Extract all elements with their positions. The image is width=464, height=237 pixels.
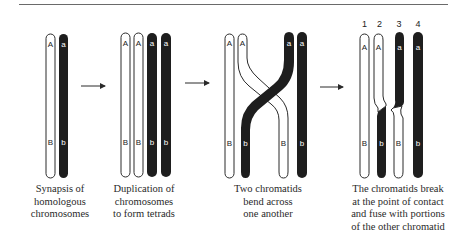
caption-line: of the other chromatid	[336, 221, 460, 234]
gene-label: b	[61, 138, 66, 147]
chromatid-dark	[297, 32, 307, 178]
caption-line: and fuse with portions	[336, 208, 460, 221]
gene-label: B	[136, 138, 141, 147]
gene-label: B	[227, 139, 232, 148]
gene-label: b	[243, 139, 248, 148]
gene-label: B	[362, 139, 367, 148]
chromatid-light	[225, 34, 234, 178]
panel-bending: A A a a B b B b	[225, 32, 307, 178]
gene-label: B	[123, 138, 128, 147]
chromatid-light	[46, 34, 55, 178]
caption-line: The chromatids break	[336, 183, 460, 196]
caption-synapsis: Synapsis of homologous chromosomes	[14, 183, 106, 221]
caption-line: chromosomes	[14, 208, 106, 221]
chromatid-4	[413, 32, 423, 178]
caption-bending: Two chromatids bend across one another	[220, 183, 316, 221]
gene-label: b	[300, 139, 305, 148]
gene-label: A	[376, 43, 382, 52]
caption-line: Duplication of	[96, 183, 192, 196]
gene-label: A	[227, 39, 233, 48]
chromatid-light	[134, 33, 143, 177]
gene-label: a	[300, 39, 305, 48]
chromatid-number: 4	[415, 19, 420, 29]
gene-label: B	[281, 139, 286, 148]
chromatid-number: 2	[377, 19, 382, 29]
caption-line: chromosomes	[96, 196, 192, 209]
gene-label: A	[136, 39, 142, 48]
caption-line: one another	[220, 208, 316, 221]
caption-line: at the point of contact	[336, 196, 460, 209]
chromatid-number: 1	[362, 19, 367, 29]
panel-crossover: 1 2 3 4 A A a a B b B b	[360, 19, 423, 178]
chromatid-number: 3	[396, 19, 401, 29]
gene-label: A	[362, 43, 368, 52]
panel-duplication: A A a a B B b b	[121, 33, 171, 177]
gene-label: B	[48, 138, 53, 147]
panel-synapsis: A a B b	[46, 34, 68, 178]
gene-label: A	[123, 39, 129, 48]
gene-label: B	[396, 139, 401, 148]
chromatid-dark	[147, 33, 157, 177]
gene-label: A	[48, 40, 54, 49]
gene-label: A	[240, 39, 246, 48]
caption-line: bend across	[220, 196, 316, 209]
gene-label: b	[416, 139, 421, 148]
gene-label: a	[416, 43, 421, 52]
chromatid-dark	[59, 34, 68, 178]
caption-crossover: The chromatids break at the point of con…	[336, 183, 460, 233]
chromatid-1	[360, 34, 369, 178]
caption-line: Two chromatids	[220, 183, 316, 196]
gene-label: b	[150, 138, 155, 147]
gene-label: b	[379, 139, 384, 148]
caption-line: to form tetrads	[96, 208, 192, 221]
gene-label: a	[287, 39, 292, 48]
caption-line: homologous	[14, 196, 106, 209]
gene-label: a	[150, 39, 155, 48]
chromatid-light	[121, 33, 130, 177]
caption-duplication: Duplication of chromosomes to form tetra…	[96, 183, 192, 221]
caption-line: Synapsis of	[14, 183, 106, 196]
gene-label: a	[164, 39, 169, 48]
gene-label: b	[164, 138, 169, 147]
gene-label: a	[61, 40, 66, 49]
gene-label: a	[397, 43, 402, 52]
chromatid-dark	[161, 33, 171, 177]
